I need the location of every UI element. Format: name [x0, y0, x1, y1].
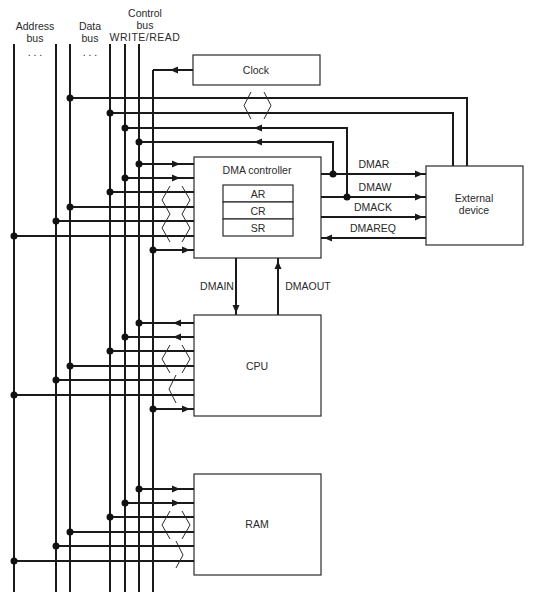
- signal-dmareq: DMAREQ: [350, 222, 396, 234]
- dma-external-signals: DMAR DMAW DMACK DMAREQ: [321, 158, 426, 242]
- bidirectional-bus-icon: [162, 186, 190, 214]
- svg-text:. . .: . . .: [28, 46, 43, 58]
- control-bus-label: Control bus WRITE/READ: [110, 7, 181, 43]
- svg-text:bus: bus: [137, 19, 154, 31]
- svg-text:WRITE/READ: WRITE/READ: [110, 31, 181, 43]
- svg-text:bus: bus: [82, 32, 99, 44]
- signal-dmaout: DMAOUT: [285, 280, 331, 292]
- dma-bus-connections: [11, 161, 195, 254]
- signal-dmack: DMACK: [354, 201, 392, 213]
- external-device-label-2: device: [459, 204, 490, 216]
- dma-block-diagram: Address bus . . . Data bus . . . Control…: [0, 0, 535, 596]
- bidirectional-bus-icon: [162, 345, 190, 373]
- svg-text:Control: Control: [128, 7, 162, 19]
- svg-text:. . .: . . .: [83, 46, 98, 58]
- bidirectional-bus-icon: [244, 92, 271, 119]
- register-cr: CR: [250, 205, 266, 217]
- dma-cpu-handshake: DMAIN DMAOUT: [200, 258, 331, 315]
- cpu-bus-connections: [11, 320, 195, 413]
- signal-dmar: DMAR: [359, 158, 390, 170]
- address-bus-label: Address bus . . .: [16, 20, 55, 58]
- external-device-label-1: External: [455, 192, 494, 204]
- signal-dmain: DMAIN: [200, 280, 234, 292]
- register-ar: AR: [251, 188, 266, 200]
- data-bus-label: Data bus . . .: [79, 20, 101, 58]
- dma-controller-title: DMA controller: [223, 164, 292, 176]
- ram-bus-connections: [11, 486, 195, 569]
- svg-text:bus: bus: [27, 32, 44, 44]
- svg-text:Data: Data: [79, 20, 101, 32]
- svg-text:Address: Address: [16, 20, 55, 32]
- register-sr: SR: [251, 222, 266, 234]
- clock-label: Clock: [243, 64, 270, 76]
- bus-lines: [14, 44, 153, 592]
- bidirectional-bus-icon: [162, 214, 190, 242]
- cpu-label: CPU: [246, 360, 268, 372]
- dma-registers: AR CR SR: [223, 185, 293, 236]
- arrow-left-icon: [170, 67, 178, 74]
- ram-label: RAM: [245, 518, 268, 530]
- bidirectional-bus-icon: [162, 511, 190, 539]
- signal-dmaw: DMAW: [359, 181, 392, 193]
